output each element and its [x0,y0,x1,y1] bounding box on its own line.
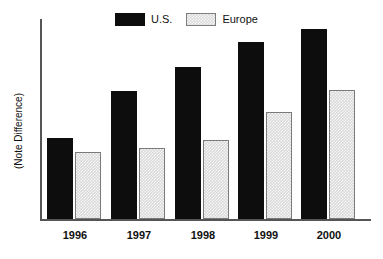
x-axis-tick-labels: 1996 1997 1998 1999 2000 [42,229,371,243]
bar-europe-1998 [203,140,229,219]
bar-group-1996 [47,19,103,219]
bar-group-1998 [175,19,231,219]
y-axis-title: (Note Difference) [14,61,24,201]
bar-europe-1997 [139,148,165,219]
x-axis-line [40,219,371,221]
bar-group-1997 [111,19,167,219]
bar-group-1999 [238,19,294,219]
x-tick-label-1997: 1997 [111,229,167,241]
bar-us-1999 [238,42,264,219]
x-tick-label-1996: 1996 [47,229,103,241]
bar-us-1998 [175,67,201,219]
bar-us-1997 [111,91,137,219]
bar-europe-1996 [75,152,101,219]
x-tick-label-2000: 2000 [301,229,357,241]
bar-europe-1999 [266,112,292,219]
bar-chart: U.S. Europe (Note Difference) [0,0,383,259]
x-tick-label-1999: 1999 [238,229,294,241]
bar-group-2000 [301,19,357,219]
bar-europe-2000 [329,90,355,219]
x-tick-label-1998: 1998 [175,229,231,241]
bar-us-2000 [301,29,327,219]
bar-us-1996 [47,138,73,219]
plot-area [42,19,371,219]
